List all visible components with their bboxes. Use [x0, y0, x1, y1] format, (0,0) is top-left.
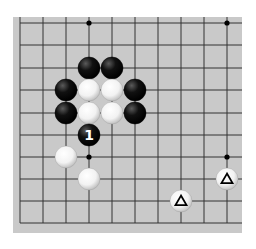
black-stone [124, 79, 146, 101]
star-point [86, 154, 91, 159]
white-stone [101, 79, 123, 101]
white-stone [170, 190, 192, 212]
go-board: 1 [0, 0, 256, 249]
white-stone [78, 102, 100, 124]
black-stone: 1 [78, 124, 100, 146]
white-stone [78, 168, 100, 190]
star-point [224, 20, 229, 25]
move-number-label: 1 [84, 127, 94, 143]
black-stone [124, 102, 146, 124]
star-point [86, 20, 91, 25]
star-point [224, 154, 229, 159]
black-stone [55, 102, 77, 124]
black-stone [78, 57, 100, 79]
black-stone [101, 57, 123, 79]
go-board-diagram: 1 [0, 0, 256, 249]
white-stone [55, 146, 77, 168]
white-stone [78, 79, 100, 101]
white-stone [101, 102, 123, 124]
black-stone [55, 79, 77, 101]
white-stone [216, 168, 238, 190]
